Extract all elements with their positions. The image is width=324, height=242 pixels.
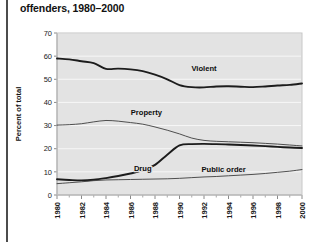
series-label-public-order: Public order	[201, 165, 245, 174]
x-tick-label-2000: 2000	[298, 202, 307, 219]
x-tick-label-1988: 1988	[151, 202, 160, 219]
series-label-drug: Drug	[134, 164, 152, 173]
chart-plot-area: 010203040506070 198019821984198619881990…	[0, 0, 324, 242]
plot-background-group	[57, 33, 302, 195]
y-axis-title: Percent of total	[14, 87, 23, 142]
x-tick-label-1998: 1998	[274, 202, 283, 219]
y-tick-label-50: 50	[44, 75, 52, 84]
x-tick-label-1986: 1986	[127, 202, 136, 219]
x-tick-label-1982: 1982	[78, 202, 87, 219]
y-tick-label-60: 60	[44, 52, 52, 61]
series-label-property: Property	[131, 108, 163, 117]
x-tick-label-1980: 1980	[53, 202, 62, 219]
y-tick-label-10: 10	[44, 168, 52, 177]
y-tick-label-0: 0	[48, 191, 52, 200]
series-label-violent: Violent	[191, 64, 217, 73]
chart-figure: offenders, 1980–2000 010203040506070 198…	[0, 0, 324, 242]
x-tick-label-1990: 1990	[176, 202, 185, 219]
x-tick-label-1996: 1996	[249, 202, 258, 219]
x-tick-label-1992: 1992	[200, 202, 209, 219]
line-chart-svg: 010203040506070 198019821984198619881990…	[0, 0, 324, 242]
y-tick-labels-group: 010203040506070	[44, 29, 52, 200]
y-tick-label-70: 70	[44, 29, 52, 38]
y-tick-label-30: 30	[44, 121, 52, 130]
y-tick-label-20: 20	[44, 144, 52, 153]
x-tick-label-1994: 1994	[225, 201, 234, 219]
x-tick-label-1984: 1984	[102, 201, 111, 219]
x-tick-labels-group: 1980198219841986198819901992199419961998…	[53, 201, 307, 219]
y-tick-label-40: 40	[44, 98, 52, 107]
plot-background	[57, 33, 302, 195]
